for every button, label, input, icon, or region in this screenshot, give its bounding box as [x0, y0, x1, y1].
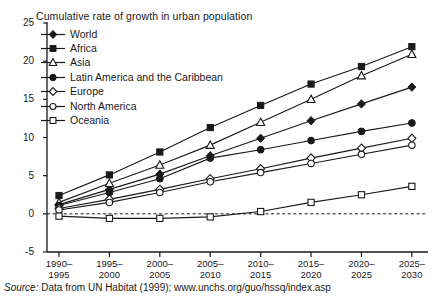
filled-circle-icon [40, 71, 66, 84]
data-point [157, 189, 163, 195]
x-tick-line-1: 1995– [81, 259, 137, 270]
data-point [307, 117, 315, 125]
figure: Cumulative rate of growth in urban popul… [0, 0, 435, 301]
data-point [408, 120, 415, 127]
x-tick-line-1: 2010– [233, 259, 289, 270]
data-point [358, 128, 365, 135]
x-tick-label: 2020–2025 [333, 259, 389, 280]
data-point [357, 71, 365, 78]
y-tick-label: 10 [8, 132, 34, 143]
filled-diamond-icon [40, 28, 66, 41]
x-tick-label: 1990–1995 [31, 259, 87, 280]
legend-item-asia[interactable]: Asia [40, 56, 270, 70]
legend-label: Latin America and the Caribbean [70, 71, 223, 84]
x-tick-label: 2010–2015 [233, 259, 289, 280]
x-tick-label: 2025–2030 [384, 259, 435, 280]
x-tick-line-2: 2025 [333, 270, 389, 281]
x-tick-label: 1995–2000 [81, 259, 137, 280]
source-caption: Source: Data from UN Habitat (1999); www… [4, 282, 331, 293]
data-point [358, 192, 364, 198]
data-point [409, 44, 415, 50]
data-point [257, 169, 263, 175]
data-point [56, 207, 62, 213]
x-tick-line-2: 2030 [384, 270, 435, 281]
legend-item-africa[interactable]: Africa [40, 41, 270, 55]
data-point [357, 100, 365, 108]
source-prefix: Source: [4, 282, 38, 293]
legend-item-world[interactable]: World [40, 27, 270, 41]
open-triangle-icon [40, 56, 66, 69]
data-point [308, 160, 314, 166]
data-point [408, 134, 416, 142]
filled-square-icon [40, 42, 66, 55]
data-point [157, 149, 163, 155]
x-tick-label: 2015–2020 [283, 259, 339, 280]
data-point [157, 215, 163, 221]
chart-title: Cumulative rate of growth in urban popul… [36, 10, 252, 22]
data-point [106, 215, 112, 221]
legend-label: Asia [70, 56, 90, 69]
x-tick-line-1: 2000– [132, 259, 188, 270]
x-tick-line-2: 2000 [81, 270, 137, 281]
data-point [257, 134, 265, 142]
data-point [308, 199, 314, 205]
x-tick-line-1: 2015– [283, 259, 339, 270]
open-circle-icon [40, 100, 66, 113]
data-point [308, 81, 314, 87]
x-tick-line-1: 1990– [31, 259, 87, 270]
data-point [106, 199, 112, 205]
x-tick-label: 2005–2010 [182, 259, 238, 280]
y-tick-label: -5 [8, 246, 34, 257]
data-point [206, 141, 214, 148]
data-point [207, 155, 214, 162]
x-tick-label: 2000–2005 [132, 259, 188, 280]
y-tick-label: 15 [8, 93, 34, 104]
legend-item-oceania[interactable]: Oceania [40, 113, 270, 127]
data-point [56, 213, 62, 219]
x-tick-line-1: 2005– [182, 259, 238, 270]
chart-legend: WorldAfricaAsiaLatin America and the Car… [40, 27, 270, 128]
x-tick-line-2: 2005 [132, 270, 188, 281]
legend-label: Europe [70, 85, 104, 98]
x-tick-line-2: 2015 [233, 270, 289, 281]
y-tick-label: 0 [8, 208, 34, 219]
y-tick-label: 5 [8, 170, 34, 181]
open-square-icon [40, 114, 66, 127]
legend-item-latin-america-and-the-caribbean[interactable]: Latin America and the Caribbean [40, 70, 270, 84]
source-text: Data from UN Habitat (1999); www.unchs.o… [41, 282, 331, 293]
data-point [106, 172, 112, 178]
legend-label: World [70, 28, 97, 41]
x-tick-line-2: 2020 [283, 270, 339, 281]
legend-label: North America [70, 100, 137, 113]
x-tick-line-1: 2025– [384, 259, 435, 270]
y-tick-label: 25 [8, 17, 34, 28]
data-point [257, 146, 264, 153]
x-tick-line-2: 2010 [182, 270, 238, 281]
y-tick-label: 20 [8, 55, 34, 66]
data-point [409, 183, 415, 189]
data-point [408, 50, 416, 57]
legend-label: Oceania [70, 114, 109, 127]
data-point [258, 208, 264, 214]
legend-item-north-america[interactable]: North America [40, 99, 270, 113]
data-point [207, 214, 213, 220]
x-tick-line-2: 1995 [31, 270, 87, 281]
data-point [358, 151, 364, 157]
data-point [408, 83, 416, 91]
data-point [308, 137, 315, 144]
data-point [358, 63, 364, 69]
data-point [409, 142, 415, 148]
legend-item-europe[interactable]: Europe [40, 85, 270, 99]
x-tick-line-1: 2020– [333, 259, 389, 270]
data-point [156, 175, 163, 182]
legend-label: Africa [70, 42, 97, 55]
open-diamond-icon [40, 85, 66, 98]
data-point [207, 179, 213, 185]
data-point [307, 95, 315, 102]
